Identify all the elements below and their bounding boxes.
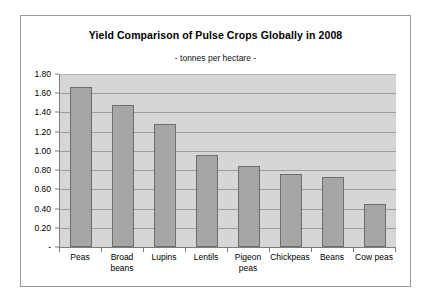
bar xyxy=(112,105,134,247)
x-tick-label: Lupins xyxy=(143,252,185,274)
x-tick-label-line: Cow peas xyxy=(355,252,393,262)
chart-frame: Yield Comparison of Pulse Crops Globally… xyxy=(20,15,411,287)
x-tick-label-line: Beans xyxy=(320,252,344,262)
x-tick-label: Pigeon peas xyxy=(227,252,269,274)
y-tick-label: 0.60 xyxy=(34,184,51,194)
bar-slot xyxy=(270,74,312,247)
x-tick-label-line: Peas xyxy=(70,252,89,262)
x-tick-label: Chickpeas xyxy=(269,252,311,274)
bar-slot xyxy=(144,74,186,247)
x-tick-label-line: Lupins xyxy=(151,252,176,262)
y-tick-label: - xyxy=(48,242,51,252)
bar-slot xyxy=(312,74,354,247)
y-tick-label: 1.00 xyxy=(34,146,51,156)
y-tick-label: 0.40 xyxy=(34,204,51,214)
bar-slot xyxy=(60,74,102,247)
x-tick-label-line: peas xyxy=(227,263,269,274)
bar-slot xyxy=(102,74,144,247)
y-tick-label: 1.80 xyxy=(34,69,51,79)
x-tick-label: Lentils xyxy=(185,252,227,274)
bar xyxy=(280,174,302,247)
bar xyxy=(364,204,386,247)
plot-area xyxy=(59,74,396,248)
x-tick-label: Beans xyxy=(311,252,353,274)
x-axis: PeasBroad beansLupinsLentilsPigeon peasC… xyxy=(59,252,395,274)
x-tick-label-line: Chickpeas xyxy=(270,252,310,262)
x-tick-label: Broad beans xyxy=(101,252,143,274)
y-tick-label: 0.20 xyxy=(34,223,51,233)
x-tick-label: Cow peas xyxy=(353,252,395,274)
bar xyxy=(322,177,344,247)
bar-series xyxy=(60,74,396,247)
bar-slot xyxy=(186,74,228,247)
chart-title: Yield Comparison of Pulse Crops Globally… xyxy=(21,29,410,41)
x-tick-label-line: beans xyxy=(101,263,143,274)
x-tick-mark xyxy=(395,248,396,252)
y-tick-label: 1.40 xyxy=(34,107,51,117)
bar xyxy=(70,87,92,248)
y-tick-label: 1.60 xyxy=(34,88,51,98)
y-tick-label: 0.80 xyxy=(34,165,51,175)
bar xyxy=(154,124,176,247)
y-tick-label: 1.20 xyxy=(34,127,51,137)
bar-slot xyxy=(228,74,270,247)
x-tick-label: Peas xyxy=(59,252,101,274)
y-axis: 1.801.601.401.201.000.800.600.400.20- xyxy=(21,74,55,247)
x-tick-label-line: Lentils xyxy=(194,252,219,262)
x-tick-label-line: Pigeon xyxy=(235,252,261,262)
bar xyxy=(238,166,260,247)
x-tick-label-line: Broad xyxy=(111,252,134,262)
bar-slot xyxy=(354,74,396,247)
bar xyxy=(196,155,218,247)
chart-subtitle: - tonnes per hectare - xyxy=(21,53,410,63)
